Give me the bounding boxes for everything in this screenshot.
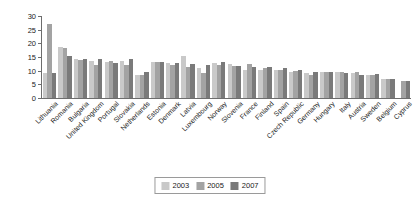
bar-groups [42, 16, 411, 98]
y-tick [38, 16, 41, 17]
x-axis-line [41, 98, 411, 99]
bar-group [242, 16, 257, 98]
bar-2007 [144, 72, 148, 99]
plot-area: 051015202530 [41, 16, 411, 98]
bar-2007 [129, 59, 133, 98]
legend-swatch-2007 [231, 182, 239, 190]
bar-group [303, 16, 318, 98]
y-tick-label: 5 [32, 80, 36, 89]
bar-2007 [359, 75, 363, 99]
bar-group [42, 16, 57, 98]
bar-group [165, 16, 180, 98]
y-tick-label: 25 [28, 25, 36, 34]
bar-2007 [190, 64, 194, 98]
bar-group [319, 16, 334, 98]
y-tick [38, 43, 41, 44]
y-tick-label: 0 [32, 94, 36, 103]
bar-2007 [344, 73, 348, 98]
y-tick-label: 15 [28, 53, 36, 62]
bar-2007 [113, 63, 117, 98]
legend-label-2003: 2003 [172, 182, 189, 190]
bar-group [380, 16, 395, 98]
bar-group [104, 16, 119, 98]
bar-group [334, 16, 349, 98]
bar-group [365, 16, 380, 98]
bar-2007 [283, 68, 287, 98]
bar-2007 [52, 73, 56, 98]
bar-group [257, 16, 272, 98]
y-axis-title-wrap: Birth rate [0, 0, 16, 100]
bar-2007 [83, 59, 87, 98]
bar-2007 [267, 67, 271, 98]
chart-legend: 2003 2005 2007 [154, 177, 265, 194]
bar-group [88, 16, 103, 98]
bar-group [196, 16, 211, 98]
bar-group [350, 16, 365, 98]
bar-group [211, 16, 226, 98]
bar-group [119, 16, 134, 98]
bar-2007 [206, 65, 210, 98]
y-tick-label: 20 [28, 39, 36, 48]
legend-item-2005: 2005 [196, 182, 224, 190]
bar-2007 [390, 79, 394, 98]
legend-swatch-2005 [196, 182, 204, 190]
bar-2007 [406, 81, 410, 98]
legend-item-2007: 2007 [231, 182, 259, 190]
legend-label-2007: 2007 [242, 182, 259, 190]
legend-item-2003: 2003 [161, 182, 189, 190]
bar-2007 [98, 59, 102, 98]
bar-2007 [175, 63, 179, 98]
bar-group [57, 16, 72, 98]
bar-2007 [313, 72, 317, 98]
legend-swatch-2003 [161, 182, 169, 190]
y-axis-title: Birth rate [2, 0, 14, 18]
x-axis-labels: LithuaniaRomaniaBulgariaUnited KingdomPo… [42, 100, 412, 160]
legend-label-2005: 2005 [207, 182, 224, 190]
y-tick [38, 98, 41, 99]
bar-group [73, 16, 88, 98]
bar-group [288, 16, 303, 98]
bar-2007 [252, 67, 256, 98]
bar-group [134, 16, 149, 98]
y-tick [38, 71, 41, 72]
bar-group [150, 16, 165, 98]
bar-group [273, 16, 288, 98]
y-tick-label: 10 [28, 66, 36, 75]
birth-rate-bar-chart: Birth rate 051015202530 LithuaniaRomania… [0, 0, 420, 202]
bar-2007 [329, 72, 333, 99]
y-tick [38, 84, 41, 85]
bar-2007 [298, 70, 302, 98]
y-tick [38, 57, 41, 58]
bar-2007 [160, 62, 164, 98]
bar-group [180, 16, 195, 98]
bar-2007 [236, 66, 240, 98]
y-tick [38, 30, 41, 31]
bar-group [227, 16, 242, 98]
bar-2007 [221, 62, 225, 98]
bar-group [396, 16, 411, 98]
y-tick-label: 30 [28, 12, 36, 21]
bar-2007 [67, 56, 71, 98]
bar-2007 [375, 74, 379, 98]
